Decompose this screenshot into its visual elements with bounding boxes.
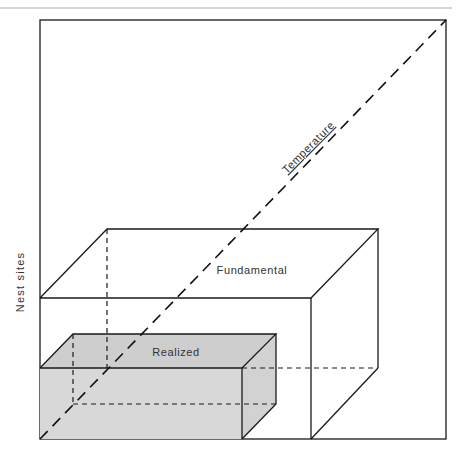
realized-label: Realized [152,346,200,358]
fundamental-label: Fundamental [217,264,288,276]
niche-diagram: Fundamental Realized Temperature Nest si… [0,0,458,455]
nest-sites-label: Nest sites [14,252,26,312]
temperature-label: Temperature [280,119,337,176]
